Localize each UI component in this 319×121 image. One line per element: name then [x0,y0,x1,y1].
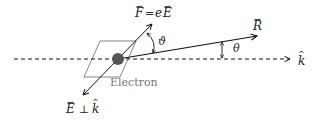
vartheta-label: ϑ [158,35,166,48]
svg-text:^: ^ [298,49,305,58]
theta-label: θ [233,42,240,55]
svg-text:e: e [155,6,162,20]
r-label: R → [252,15,262,33]
force-label: F → = e E → [134,2,172,20]
e-perp-k-label: E → ⊥ k ^ [65,97,99,116]
svg-text:→: → [67,98,74,107]
svg-text:→: → [136,2,143,11]
svg-text:→: → [254,15,261,24]
svg-text:=: = [145,7,154,20]
diagram-canvas: F → = e E → ϑ R → θ k ^ Electron E → ⊥ k… [0,0,319,121]
k-hat-label: k ^ [298,49,305,68]
electron-dot [112,53,124,65]
vartheta-angle-arc [147,33,154,53]
electron-label: Electron [110,76,158,89]
svg-text:^: ^ [92,97,99,106]
svg-text:→: → [164,2,171,11]
svg-text:⊥: ⊥ [79,103,89,116]
